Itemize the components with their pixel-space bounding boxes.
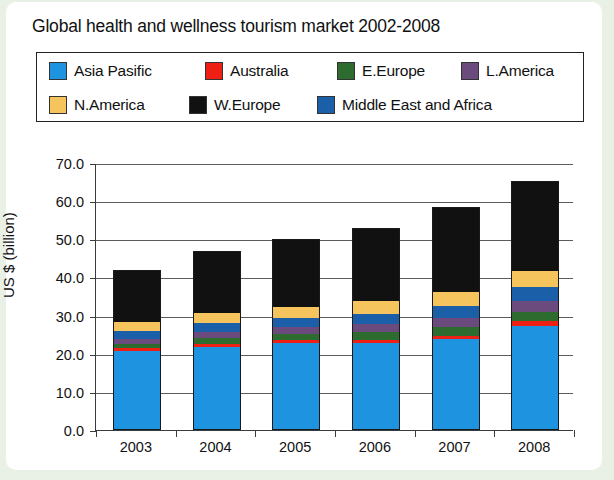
bar-segment	[273, 340, 319, 343]
legend-item-label: N.America	[74, 96, 145, 114]
legend-row: N.AmericaW.EuropeMiddle East and Africa	[37, 87, 583, 122]
bar-segment	[194, 344, 240, 347]
legend-item[interactable]: W.Europe	[189, 93, 280, 117]
bar-2003[interactable]	[113, 270, 161, 430]
bar-segment	[114, 331, 160, 339]
y-tick-label: 30.0	[24, 309, 84, 325]
bar-segment	[194, 338, 240, 344]
x-tick-label: 2004	[176, 439, 256, 455]
x-tick-mark	[255, 430, 256, 437]
legend-swatch-icon	[205, 62, 223, 80]
y-tick-mark	[90, 317, 96, 318]
y-tick-mark	[90, 355, 96, 356]
bar-segment	[114, 351, 160, 429]
bar-segment	[353, 229, 399, 301]
bar-segment	[433, 306, 479, 318]
legend-item[interactable]: Australia	[205, 59, 289, 83]
bar-segment	[512, 301, 558, 311]
y-tick-label: 70.0	[24, 156, 84, 172]
legend-item-label: W.Europe	[214, 96, 280, 114]
legend-item[interactable]: L.America	[461, 59, 554, 83]
legend-swatch-icon	[461, 62, 479, 80]
x-tick-mark	[574, 430, 575, 437]
legend-item-label: Australia	[230, 62, 289, 80]
plot-area: 70.060.050.040.030.020.010.00.0200320042…	[95, 164, 573, 431]
legend-item[interactable]: Middle East and Africa	[317, 93, 492, 117]
y-tick-mark	[90, 202, 96, 203]
legend-row: Asia PasificAustraliaE.EuropeL.America	[37, 53, 583, 88]
legend-item[interactable]: E.Europe	[337, 59, 425, 83]
bar-segment	[512, 287, 558, 301]
bar-segment	[353, 324, 399, 332]
bar-segment	[194, 252, 240, 314]
bar-segment	[433, 339, 479, 429]
bar-2007[interactable]	[432, 207, 480, 430]
bar-segment	[512, 182, 558, 271]
bar-2004[interactable]	[193, 251, 241, 430]
bar-segment	[512, 271, 558, 287]
y-tick-mark	[90, 240, 96, 241]
y-tick-label: 0.0	[24, 423, 84, 439]
bar-segment	[353, 314, 399, 324]
bar-segment	[114, 348, 160, 351]
bar-segment	[353, 332, 399, 340]
bar-segment	[194, 347, 240, 429]
legend-item-label: Middle East and Africa	[342, 96, 492, 114]
x-tick-label: 2008	[494, 439, 574, 455]
y-gridline	[96, 240, 573, 241]
bar-segment	[273, 327, 319, 334]
bar-segment	[194, 313, 240, 323]
y-tick-label: 60.0	[24, 194, 84, 210]
x-tick-label: 2006	[335, 439, 415, 455]
bar-segment	[353, 340, 399, 343]
bar-segment	[194, 323, 240, 332]
legend-swatch-icon	[49, 96, 67, 114]
legend-item[interactable]: N.America	[49, 93, 145, 117]
x-tick-mark	[494, 430, 495, 437]
bar-segment	[512, 321, 558, 326]
bar-segment	[273, 240, 319, 307]
bar-segment	[114, 271, 160, 322]
bar-segment	[433, 336, 479, 340]
y-tick-mark	[90, 278, 96, 279]
bar-segment	[353, 301, 399, 314]
chart-card: Global health and wellness tourism marke…	[6, 2, 602, 470]
y-tick-label: 50.0	[24, 232, 84, 248]
bar-segment	[433, 327, 479, 335]
bar-segment	[114, 344, 160, 348]
bar-2006[interactable]	[352, 228, 400, 430]
bar-segment	[433, 318, 479, 327]
x-tick-mark	[335, 430, 336, 437]
legend-swatch-icon	[189, 96, 207, 114]
bar-segment	[273, 343, 319, 429]
bar-segment	[433, 292, 479, 306]
bar-segment	[512, 312, 558, 322]
y-gridline	[96, 202, 573, 203]
y-axis-title: US $ (billion)	[0, 212, 17, 298]
y-gridline	[96, 164, 573, 165]
y-gridline	[96, 393, 573, 394]
y-gridline	[96, 317, 573, 318]
bar-2008[interactable]	[511, 181, 559, 430]
y-tick-label: 40.0	[24, 270, 84, 286]
y-tick-label: 10.0	[24, 385, 84, 401]
page-title: Global health and wellness tourism marke…	[32, 16, 440, 37]
legend-item-label: L.America	[486, 62, 554, 80]
x-tick-label: 2005	[255, 439, 335, 455]
legend-swatch-icon	[49, 62, 67, 80]
y-gridline	[96, 355, 573, 356]
bar-segment	[512, 326, 558, 429]
bar-2005[interactable]	[272, 239, 320, 430]
bar-segment	[433, 208, 479, 292]
y-tick-mark	[90, 393, 96, 394]
x-tick-label: 2003	[96, 439, 176, 455]
x-tick-label: 2007	[415, 439, 495, 455]
legend-item-label: E.Europe	[362, 62, 425, 80]
chart-legend: Asia PasificAustraliaE.EuropeL.AmericaN.…	[36, 52, 584, 122]
bar-segment	[194, 332, 240, 338]
y-tick-label: 20.0	[24, 347, 84, 363]
legend-item[interactable]: Asia Pasific	[49, 59, 152, 83]
bar-segment	[114, 322, 160, 331]
y-gridline	[96, 278, 573, 279]
bar-segment	[273, 307, 319, 318]
